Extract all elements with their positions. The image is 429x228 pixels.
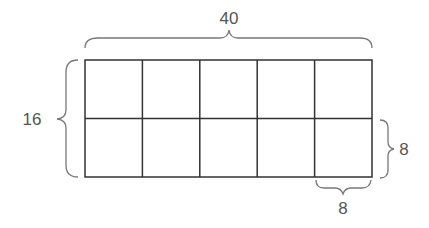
left-height-label: 16 [23,110,42,129]
right-brace [380,120,394,178]
top-brace [85,30,372,48]
grid [85,60,372,177]
bottom-brace [316,180,371,194]
area-model-diagram: 40 16 8 8 [0,0,429,228]
bottom-cell-width-label: 8 [338,199,347,218]
right-cell-height-label: 8 [399,140,408,159]
top-width-label: 40 [220,9,239,28]
left-brace [57,60,78,177]
